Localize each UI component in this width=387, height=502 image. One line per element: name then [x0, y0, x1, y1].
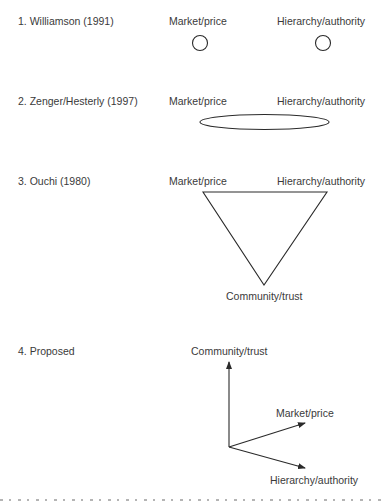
ouchi-triangle	[203, 192, 327, 285]
market-circle	[193, 36, 208, 51]
combined-ellipse	[200, 115, 329, 130]
diagram-shapes	[0, 0, 387, 502]
market-axis-arrow	[229, 423, 305, 447]
hierarchy-axis-arrow	[229, 447, 305, 468]
clipped-caption-line	[0, 496, 387, 502]
hierarchy-circle	[316, 36, 331, 51]
